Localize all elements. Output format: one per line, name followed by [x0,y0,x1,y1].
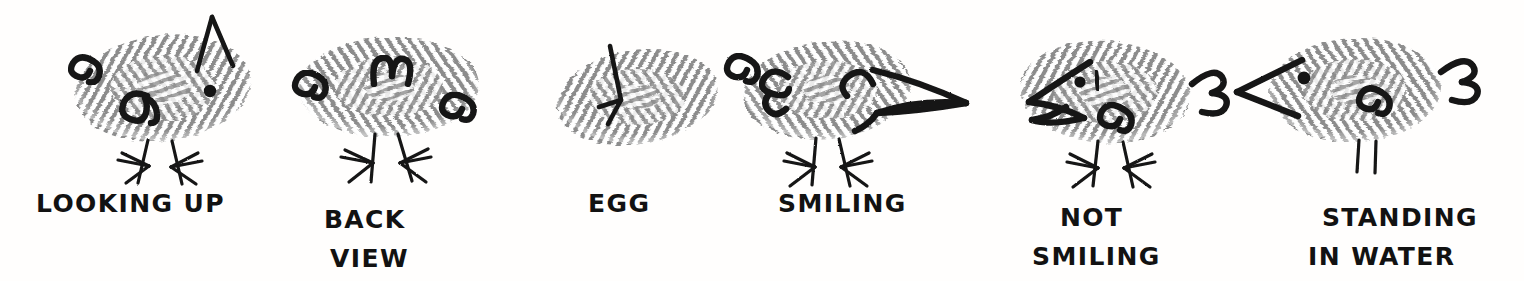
caption-not-smiling: NOT SMILING [1032,190,1161,281]
figure-standing-in-water [1237,30,1478,173]
figure-egg [545,40,735,160]
caption-standing-line2: IN WATER [1294,245,1478,269]
figure-back-view [290,28,495,182]
eyebrow-icon [1096,72,1098,89]
caption-not-smiling-line2: SMILING [1032,245,1161,269]
caption-back-view-line1: BACK [324,205,406,234]
illustration-sheet: LOOKING UP BACK VIEW EGG SMILING NOT SMI… [0,0,1524,281]
legs-4 [784,138,872,186]
legs-5 [1067,141,1155,187]
eye-dot-icon [204,85,216,97]
tail-beta-icon-6 [1441,61,1478,102]
caption-not-smiling-line1: NOT [1060,203,1123,232]
caption-looking-up: LOOKING UP [36,192,225,216]
caption-standing-line1: STANDING [1322,203,1478,232]
thumbprint-body-4 [730,32,930,157]
thumbprint-body-1 [60,25,270,155]
caption-back-view: BACK VIEW [296,192,409,281]
eye-dot-icon-5 [1074,76,1085,87]
legs-1 [118,140,202,184]
thumbprint-body-2 [290,28,495,153]
legs-6-no-feet [1357,140,1376,173]
tail-beta-icon-5 [1192,73,1227,114]
caption-back-view-line2: VIEW [296,247,409,271]
caption-smiling: SMILING [778,192,907,216]
figure-smiling [727,32,966,186]
eye-dot-icon-6 [1298,72,1311,85]
tail-omega-icon-4 [727,56,758,82]
figure-looking-up [60,17,270,184]
caption-standing-in-water: STANDING IN WATER [1294,190,1478,281]
caption-egg: EGG [588,192,650,216]
legs-2 [341,134,431,182]
figure-not-smiling [1008,33,1227,187]
thumbprint-body-3 [545,40,735,160]
